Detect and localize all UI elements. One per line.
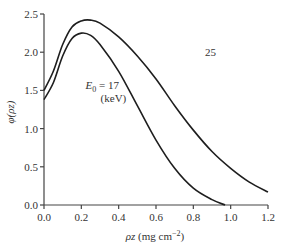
x-tick-label: 0.0: [37, 211, 51, 223]
axes: 0.00.51.01.52.02.50.00.20.40.60.81.01.2: [24, 8, 275, 223]
x-axis-title: ρz (mg cm−2): [125, 229, 185, 243]
phi-rhoz-chart: 0.00.51.01.52.02.50.00.20.40.60.81.01.2 …: [0, 0, 286, 250]
curve-17kev: [44, 33, 225, 205]
label-25kev: 25: [205, 46, 217, 58]
x-tick-label: 0.4: [112, 211, 126, 223]
x-tick-label: 0.8: [186, 211, 200, 223]
y-tick-label: 2.5: [24, 8, 38, 20]
y-tick-label: 0.0: [24, 199, 38, 211]
y-tick-label: 1.5: [24, 84, 38, 96]
curves: [44, 20, 268, 205]
x-tick-label: 0.2: [74, 211, 88, 223]
label-17kev-unit: (keV): [101, 92, 127, 105]
x-tick-label: 1.0: [224, 211, 238, 223]
y-tick-label: 0.5: [24, 161, 38, 173]
y-tick-label: 1.0: [24, 123, 38, 135]
x-tick-label: 1.2: [261, 211, 275, 223]
y-tick-label: 2.0: [24, 46, 38, 58]
y-axis-title: φ(ρz): [4, 100, 17, 123]
curve-25kev: [44, 20, 268, 192]
x-tick-label: 0.6: [149, 211, 163, 223]
annotations: 25E0 = 17(keV): [85, 46, 217, 104]
